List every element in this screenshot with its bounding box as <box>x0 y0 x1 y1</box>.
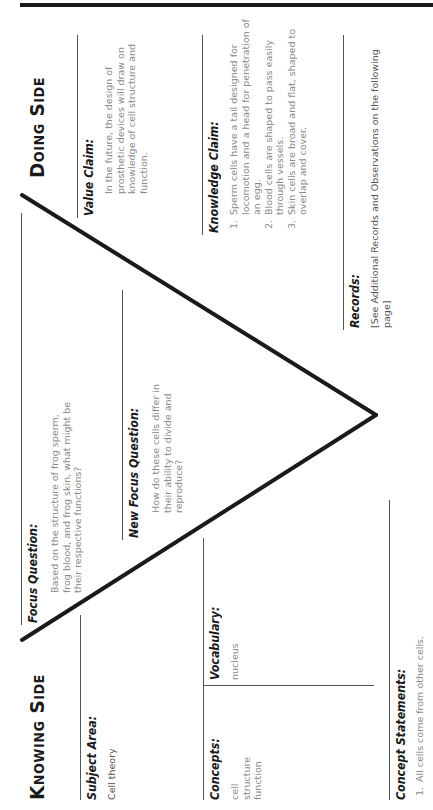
vocabulary-heading: Vocabulary: <box>207 561 223 680</box>
concept-item: cell <box>229 690 241 800</box>
subject-area-heading: Subject Area: <box>84 647 100 800</box>
records-heading: Records: <box>347 73 363 328</box>
value-claim-text: In the future, the design of prosthetic … <box>103 29 149 194</box>
vocabulary-section: Vocabulary: nucleus <box>207 540 241 680</box>
concept-statement-item: All cells come from other cells. <box>414 500 426 784</box>
concept-statements-heading: Concept Statements: <box>393 545 409 800</box>
knowledge-claim-heading: Knowledge Claim: <box>206 46 222 233</box>
value-claim-rule <box>77 35 78 218</box>
vee-diagram-page: Knowing Side Doing Side Subject Area: Ce… <box>0 0 433 810</box>
vocabulary-list: nucleus <box>229 540 241 680</box>
knowledge-claim-item: Skin cells are broad and flat, shaped to… <box>286 7 309 217</box>
records-section: Records: [See Additional Records and Obs… <box>347 28 392 328</box>
records-rule <box>343 35 344 330</box>
knowledge-claim-list: Sperm cells have a tail designed for loc… <box>228 7 309 233</box>
subject-area-rule <box>80 615 81 800</box>
value-claim-section: Value Claim: In the future, the design o… <box>81 31 149 216</box>
focus-question-text: Based on the structure of frog sperm, fr… <box>49 398 84 593</box>
records-text: [See Additional Records and Observations… <box>369 36 392 328</box>
subject-area-section: Subject Area: Cell theory <box>84 620 118 800</box>
doing-side-title: Doing Side <box>26 77 48 178</box>
new-focus-question-heading: New Focus Question: <box>126 330 142 538</box>
knowing-side-title: Knowing Side <box>26 674 48 800</box>
concept-item: function <box>252 690 264 800</box>
vocabulary-item: nucleus <box>229 540 241 680</box>
concepts-section: Concepts: cell structure function <box>207 690 264 800</box>
concepts-rule <box>203 538 204 800</box>
knowledge-claim-section: Knowledge Claim: Sperm cells have a tail… <box>206 13 309 233</box>
concepts-vocab-divider <box>203 685 374 686</box>
subject-area-text: Cell theory <box>106 620 118 800</box>
concepts-heading: Concepts: <box>207 707 223 801</box>
concept-statements-list: All cells come from other cells. <box>414 500 426 800</box>
concepts-list: cell structure function <box>229 690 264 800</box>
focus-question-section: Focus Question: Based on the structure o… <box>25 223 84 623</box>
focus-question-heading: Focus Question: <box>25 283 41 623</box>
new-focus-question-section: New Focus Question: How do these cells d… <box>126 293 185 538</box>
knowledge-claim-item: Blood cells are shaped to pass easily th… <box>263 7 286 217</box>
knowledge-claim-item: Sperm cells have a tail designed for loc… <box>228 7 263 217</box>
concept-statements-section: Concept Statements: All cells come from … <box>393 500 426 800</box>
page-edge-bar <box>20 3 433 7</box>
concept-item: structure <box>241 690 253 800</box>
knowledge-claim-rule <box>202 35 203 235</box>
new-focus-question-text: How do these cells differ in their abili… <box>150 363 185 513</box>
focus-question-rule <box>21 213 22 625</box>
new-focus-question-rule <box>122 290 123 540</box>
value-claim-heading: Value Claim: <box>81 59 97 216</box>
concept-statements-rule <box>389 500 390 800</box>
